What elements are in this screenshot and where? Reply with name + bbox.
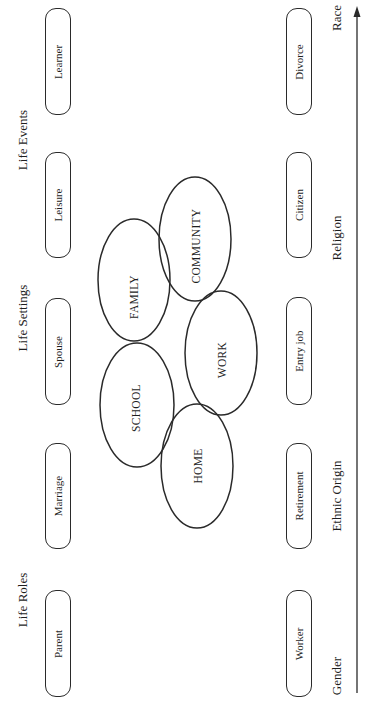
label-race: Race	[329, 5, 345, 31]
label-religion: Religion	[329, 216, 345, 261]
ellipse-label-family: FAMILY	[128, 275, 140, 319]
label-gender: Gender	[329, 657, 345, 695]
ellipse-label-home: HOME	[192, 448, 204, 483]
life-settings-ellipses	[0, 0, 369, 701]
context-arrow	[354, 6, 361, 693]
ellipse-label-community: COMMUNITY	[190, 209, 202, 284]
ellipse-label-school: SCHOOL	[130, 384, 142, 432]
ellipse-label-work: WORK	[216, 342, 228, 378]
arrow-head-icon	[354, 6, 361, 17]
label-ethnic-origin: Ethnic Origin	[329, 460, 345, 531]
